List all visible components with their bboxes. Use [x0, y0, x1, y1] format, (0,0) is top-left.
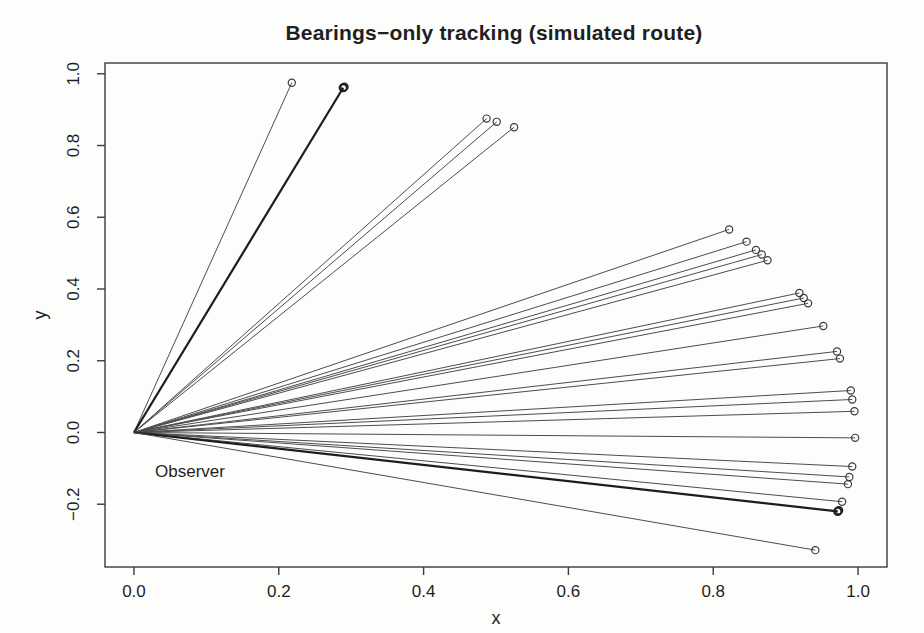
- y-axis-label: y: [30, 311, 50, 320]
- y-tick-label: 0.4: [64, 277, 83, 301]
- x-tick-label: 0.2: [267, 582, 291, 601]
- x-tick-label: 1.0: [846, 582, 870, 601]
- y-tick-label: 0.6: [64, 205, 83, 229]
- bearing-line: [134, 432, 848, 484]
- plot-border: [105, 63, 887, 567]
- bearing-line: [134, 351, 837, 432]
- y-tick-label: 0.0: [64, 421, 83, 445]
- observer-label: Observer: [155, 462, 225, 481]
- bearing-line: [134, 432, 842, 501]
- bearing-line: [134, 432, 838, 511]
- bearing-line: [134, 359, 840, 433]
- bearing-line: [134, 122, 497, 433]
- bearing-line: [134, 242, 747, 433]
- plot-area: [134, 79, 859, 554]
- bearing-line: [134, 411, 854, 432]
- bearing-line: [134, 260, 768, 432]
- y-tick-label: 0.8: [64, 134, 83, 158]
- bearing-line: [134, 432, 815, 550]
- bearing-line: [134, 83, 292, 433]
- x-tick-label: 0.0: [122, 582, 146, 601]
- target-point: [758, 251, 765, 258]
- y-tick-label: 0.2: [64, 349, 83, 373]
- x-tick-label: 0.4: [412, 582, 436, 601]
- bearing-line: [134, 432, 849, 476]
- bearing-line: [134, 432, 855, 437]
- x-tick-label: 0.8: [701, 582, 725, 601]
- y-tick-label: −0.2: [64, 487, 83, 521]
- target-point: [743, 238, 750, 245]
- bearing-line: [134, 119, 487, 433]
- x-tick-label: 0.6: [557, 582, 581, 601]
- chart-svg: 0.00.20.40.60.81.01.00.80.60.40.20.0−0.2…: [0, 0, 924, 633]
- target-point: [764, 257, 771, 264]
- bearing-line: [134, 255, 762, 433]
- bearing-line: [134, 127, 514, 432]
- x-axis-label: x: [492, 608, 501, 628]
- figure: 0.00.20.40.60.81.01.00.80.60.40.20.0−0.2…: [0, 0, 924, 633]
- bearing-line: [134, 432, 852, 466]
- y-tick-label: 1.0: [64, 62, 83, 86]
- chart-title: Bearings−only tracking (simulated route): [285, 21, 702, 44]
- bearing-line: [134, 293, 799, 433]
- axes: 0.00.20.40.60.81.01.00.80.60.40.20.0−0.2: [64, 62, 870, 601]
